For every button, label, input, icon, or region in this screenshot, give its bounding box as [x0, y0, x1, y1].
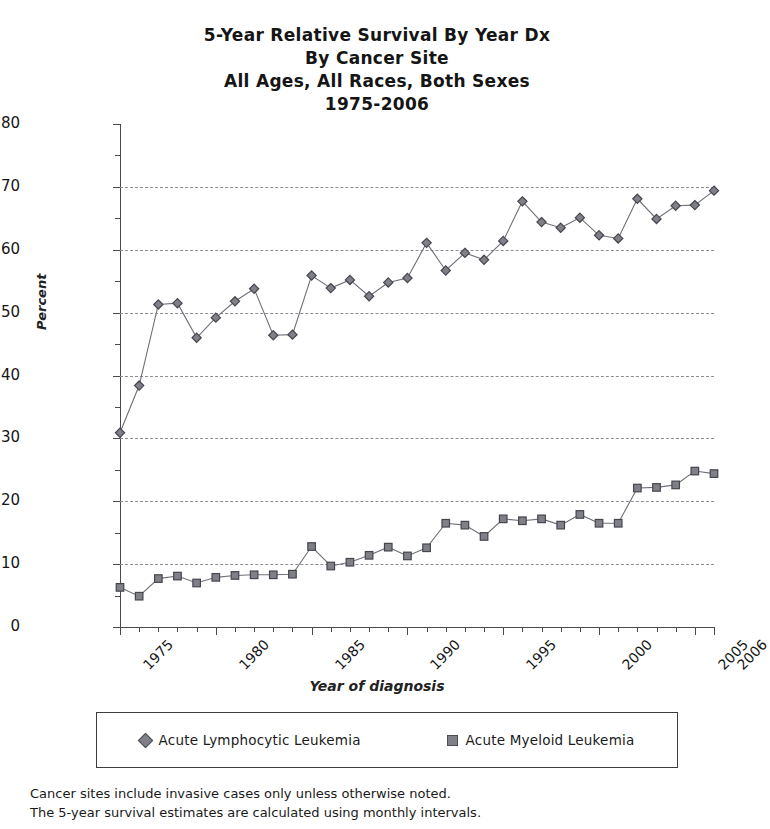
data-point [116, 584, 124, 592]
x-tick-2002 [637, 627, 638, 632]
data-point [499, 515, 507, 523]
series-plot [120, 124, 714, 627]
data-point [634, 484, 642, 492]
data-point [480, 533, 488, 541]
x-tick-2003 [657, 627, 658, 632]
y-tick-label-70: 70 [0, 179, 20, 194]
data-point [653, 484, 661, 492]
data-point [404, 552, 412, 560]
data-point [173, 299, 182, 308]
series-line [120, 191, 714, 433]
data-point [250, 571, 258, 579]
x-tick-label-1975: 1975 [140, 637, 175, 672]
data-point [403, 273, 412, 282]
chart-title: 5-Year Relative Survival By Year Dx By C… [0, 24, 754, 116]
legend: Acute Lymphocytic LeukemiaAcute Myeloid … [96, 712, 678, 768]
y-tick-label-20: 20 [0, 493, 20, 508]
data-point [269, 331, 278, 340]
x-tick-1995 [503, 627, 504, 635]
x-tick-1980 [216, 627, 217, 635]
x-tick-2004 [676, 627, 677, 632]
data-point [422, 238, 431, 247]
series-line [120, 471, 714, 596]
legend-entry-2[interactable]: Acute Myeloid Leukemia [447, 732, 635, 748]
data-point [289, 570, 297, 578]
data-point [174, 572, 182, 580]
x-tick-1978 [177, 627, 178, 632]
title-line-4: 1975-2006 [0, 93, 754, 116]
data-point [155, 575, 163, 583]
y-tick-label-0: 0 [0, 619, 20, 634]
title-line-2: By Cancer Site [0, 47, 754, 70]
y-tick-label-10: 10 [0, 556, 20, 571]
x-tick-1984 [292, 627, 293, 632]
data-point [326, 284, 335, 293]
x-tick-label-1980: 1980 [236, 637, 271, 672]
y-tick-60 [113, 250, 120, 251]
title-line-3: All Ages, All Races, Both Sexes [0, 70, 754, 93]
y-tick-label-60: 60 [0, 242, 20, 257]
data-point [346, 558, 354, 566]
x-tick-label-1985: 1985 [332, 637, 367, 672]
x-tick-1983 [273, 627, 274, 632]
y-tick-label-50: 50 [0, 305, 20, 320]
data-point [614, 519, 622, 527]
data-point [154, 300, 163, 309]
series-all [115, 186, 718, 437]
y-tick-40 [113, 376, 120, 377]
title-line-1: 5-Year Relative Survival By Year Dx [0, 24, 754, 47]
y-axis-title: Percent [34, 274, 49, 330]
x-axis-title: Year of diagnosis [0, 678, 754, 694]
legend-entry-1[interactable]: Acute Lymphocytic Leukemia [140, 732, 361, 748]
data-point [365, 552, 373, 560]
square-marker-icon [447, 735, 458, 746]
x-axis-line [120, 627, 715, 628]
x-tick-1998 [561, 627, 562, 632]
data-point [327, 562, 335, 570]
x-tick-2001 [618, 627, 619, 632]
y-tick-30 [113, 438, 120, 439]
y-tick-label-30: 30 [0, 430, 20, 445]
y-tick-label-80: 80 [0, 116, 20, 131]
legend-label: Acute Myeloid Leukemia [466, 732, 635, 748]
data-point [538, 515, 546, 523]
x-tick-1986 [331, 627, 332, 632]
data-point [614, 234, 623, 243]
data-point [288, 330, 297, 339]
y-tick-label-40: 40 [0, 368, 20, 383]
data-point [576, 511, 584, 519]
data-point [135, 381, 144, 390]
x-tick-1975 [120, 627, 121, 635]
series-aml [116, 467, 718, 600]
x-tick-1982 [254, 627, 255, 632]
data-point [690, 201, 699, 210]
y-tick-20 [113, 501, 120, 502]
x-tick-2000 [599, 627, 600, 635]
data-point [461, 521, 469, 529]
diamond-marker-icon [137, 732, 153, 748]
x-tick-2005 [695, 627, 696, 635]
footnotes: Cancer sites include invasive cases only… [30, 784, 730, 822]
data-point [671, 201, 680, 210]
data-point [556, 223, 565, 232]
x-tick-1977 [158, 627, 159, 632]
footnote-2: The 5-year survival estimates are calcul… [30, 803, 730, 822]
x-tick-1990 [407, 627, 408, 635]
y-tick-0 [113, 627, 120, 628]
data-point [519, 517, 527, 525]
footnote-1: Cancer sites include invasive cases only… [30, 784, 730, 803]
data-point [595, 519, 603, 527]
data-point [557, 521, 565, 529]
y-tick-70 [113, 187, 120, 188]
data-point [384, 278, 393, 287]
data-point [250, 284, 259, 293]
x-tick-1994 [484, 627, 485, 632]
x-tick-1997 [542, 627, 543, 632]
x-tick-1992 [446, 627, 447, 632]
x-tick-1981 [235, 627, 236, 632]
x-tick-1988 [369, 627, 370, 632]
data-point [135, 592, 143, 600]
legend-label: Acute Lymphocytic Leukemia [159, 732, 361, 748]
x-tick-1996 [522, 627, 523, 632]
y-tick-80 [113, 124, 120, 125]
